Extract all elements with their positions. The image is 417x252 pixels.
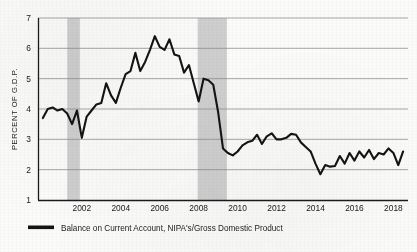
y-tick-label-7: 7 [26,13,31,23]
legend-swatch-icon [28,226,54,230]
x-tick-label-2004: 2004 [111,203,130,213]
y-tick-label-3: 3 [26,134,31,144]
legend: Balance on Current Account, NIPA's/Gross… [28,224,283,233]
x-axis-tick-labels: 200220042006200820102012201420162018 [72,203,403,213]
y-axis-title: PERCENT OF G.D.P. [10,68,19,150]
y-tick-label-1: 1 [26,195,31,205]
x-tick-label-2006: 2006 [150,203,169,213]
x-tick-label-2016: 2016 [345,203,364,213]
x-tick-label-2012: 2012 [267,203,286,213]
legend-label: Balance on Current Account, NIPA's/Gross… [61,224,283,233]
y-tick-label-5: 5 [26,74,31,84]
current-account-balance-line-chart: 1234567 20022004200620082010201220142016… [0,0,417,252]
y-tick-label-2: 2 [26,165,31,175]
y-axis-tick-labels: 1234567 [26,13,31,205]
x-tick-label-2018: 2018 [384,203,403,213]
y-tick-label-6: 6 [26,43,31,53]
x-tick-label-2010: 2010 [228,203,247,213]
x-tick-label-2002: 2002 [72,203,91,213]
chart-figure: 1234567 20022004200620082010201220142016… [0,0,417,252]
x-tick-label-2008: 2008 [189,203,208,213]
y-tick-label-4: 4 [26,104,31,114]
x-tick-label-2014: 2014 [306,203,325,213]
